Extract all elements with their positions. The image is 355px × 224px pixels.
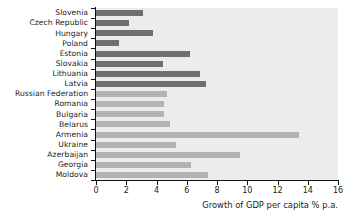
y-axis-tick: [91, 38, 95, 39]
category-label: Russian Federation: [0, 89, 92, 99]
bar-slot: [96, 119, 338, 129]
bar: [96, 91, 167, 97]
x-axis-tick-label: 4: [154, 186, 159, 195]
bar: [96, 101, 164, 107]
category-label: Slovenia: [0, 8, 92, 18]
category-label: Estonia: [0, 49, 92, 59]
x-axis-tick-label: 0: [93, 186, 98, 195]
y-axis-tick: [91, 129, 95, 130]
y-axis-tick: [91, 69, 95, 70]
category-label: Czech Republic: [0, 18, 92, 28]
bar: [96, 61, 163, 67]
x-axis-tick-label: 6: [184, 186, 189, 195]
bar-slot: [96, 18, 338, 28]
y-axis-tick: [91, 109, 95, 110]
bar: [96, 162, 191, 168]
bar-slot: [96, 140, 338, 150]
y-axis-tick: [91, 99, 95, 100]
x-axis-tick: [96, 181, 97, 185]
bar-slot: [96, 109, 338, 119]
bar-slot: [96, 99, 338, 109]
bar-slot: [96, 160, 338, 170]
y-axis-tick: [91, 140, 95, 141]
bar-slot: [96, 89, 338, 99]
y-axis-tick: [91, 170, 95, 171]
y-axis-tick: [91, 79, 95, 80]
bar: [96, 152, 240, 158]
category-label: Lithuania: [0, 69, 92, 79]
y-axis-tick: [91, 119, 95, 120]
category-label: Belarus: [0, 119, 92, 129]
x-axis-title: Growth of GDP per capita % p.a.: [202, 200, 338, 210]
bar: [96, 10, 143, 16]
bar: [96, 142, 176, 148]
bar-slot: [96, 69, 338, 79]
y-axis-tick: [91, 59, 95, 60]
bar: [96, 51, 190, 57]
bar-slot: [96, 38, 338, 48]
bar: [96, 30, 153, 36]
x-axis-tick: [157, 181, 158, 185]
x-axis-tick-label: 12: [272, 186, 282, 195]
y-axis-tick: [91, 48, 95, 49]
category-label: Moldova: [0, 170, 92, 180]
bar-slot: [96, 49, 338, 59]
y-axis-tick: [91, 28, 95, 29]
bar: [96, 172, 208, 178]
y-axis-tick: [91, 160, 95, 161]
bar: [96, 40, 119, 46]
y-axis-line: [95, 7, 96, 181]
bar-slot: [96, 130, 338, 140]
category-label: Romania: [0, 99, 92, 109]
x-axis-tick: [187, 181, 188, 185]
category-label: Poland: [0, 38, 92, 48]
category-label: Ukraine: [0, 140, 92, 150]
category-label: Georgia: [0, 160, 92, 170]
x-axis-tick-label: 10: [242, 186, 252, 195]
x-axis-tick-label: 2: [124, 186, 129, 195]
bar-slot: [96, 59, 338, 69]
bar: [96, 20, 129, 26]
y-axis-tick: [91, 18, 95, 19]
bar: [96, 121, 170, 127]
x-axis-tick: [126, 181, 127, 185]
y-axis-tick: [91, 180, 95, 181]
bar-slot: [96, 8, 338, 18]
category-label: Azerbaijan: [0, 150, 92, 160]
bar-slot: [96, 150, 338, 160]
category-axis-labels: Slovenia Czech Republic Hungary Poland E…: [0, 8, 92, 180]
y-axis-tick: [91, 150, 95, 151]
x-axis-tick-label: 8: [214, 186, 219, 195]
x-axis-tick: [247, 181, 248, 185]
bar-series: [96, 8, 338, 180]
plot-area: [96, 8, 338, 180]
bar-slot: [96, 28, 338, 38]
category-label: Armenia: [0, 130, 92, 140]
bar: [96, 132, 299, 138]
category-label: Slovakia: [0, 59, 92, 69]
x-axis-tick-label: 16: [333, 186, 343, 195]
y-axis-tick: [91, 8, 95, 9]
category-label: Latvia: [0, 79, 92, 89]
x-axis-tick: [308, 181, 309, 185]
bar: [96, 81, 206, 87]
y-axis-tick: [91, 89, 95, 90]
bar: [96, 71, 200, 77]
category-label: Hungary: [0, 28, 92, 38]
x-axis-tick: [338, 181, 339, 185]
bar-slot: [96, 79, 338, 89]
x-axis-tick: [278, 181, 279, 185]
x-axis-tick: [217, 181, 218, 185]
bar: [96, 111, 164, 117]
x-axis-tick-label: 14: [303, 186, 313, 195]
category-label: Bulgaria: [0, 109, 92, 119]
bar-chart: Slovenia Czech Republic Hungary Poland E…: [0, 0, 355, 224]
bar-slot: [96, 170, 338, 180]
